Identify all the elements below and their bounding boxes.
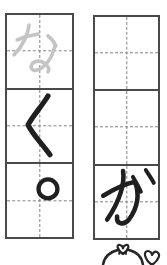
practice-column-left: な く 。: [5, 13, 74, 239]
practice-cell-ku: く: [7, 88, 72, 163]
punctuation-maru-glyph: [7, 164, 72, 237]
kana-ga-glyph: [95, 166, 158, 238]
heart-icon: [145, 251, 159, 265]
practice-column-right: が: [93, 15, 160, 240]
practice-cell-empty-1: [95, 17, 158, 89]
drawstring-pouch-icon: [95, 243, 167, 265]
cell-character-text: [95, 91, 96, 92]
practice-cell-na: な: [7, 15, 72, 88]
practice-cell-empty-2: [95, 89, 158, 163]
center-guide-horizontal: [95, 127, 158, 128]
kana-ku-glyph: [7, 90, 72, 163]
kana-na-trace-glyph: [7, 15, 72, 88]
handwriting-practice-page: { "sheet": { "type": "kana-handwriting-p…: [0, 0, 167, 265]
center-guide-horizontal: [95, 52, 158, 53]
cell-character-text: [95, 17, 96, 18]
practice-cell-maru: 。: [7, 162, 72, 237]
practice-cell-ga: が: [95, 164, 158, 238]
